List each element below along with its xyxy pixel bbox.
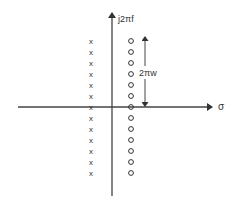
zero-marker <box>129 138 134 143</box>
pole-marker: x <box>89 136 93 145</box>
pole-marker: x <box>89 81 93 90</box>
zero-marker <box>129 94 134 99</box>
pole-marker: x <box>89 48 93 57</box>
diagram-svg: j2πf σ 2πw xxxxxxxxxxxxx <box>0 0 233 203</box>
zero-marker <box>129 116 134 121</box>
pole-marker: x <box>89 158 93 167</box>
zero-marker <box>129 149 134 154</box>
pole-zero-diagram: j2πf σ 2πw xxxxxxxxxxxxx <box>0 0 233 203</box>
spacing-label: 2πw <box>139 68 157 78</box>
pole-marker: x <box>89 125 93 134</box>
zero-marker <box>129 61 134 66</box>
horizontal-axis-label: σ <box>218 101 225 112</box>
zero-marker <box>129 72 134 77</box>
vertical-axis-label: j2πf <box>117 14 134 24</box>
zero-marker <box>129 127 134 132</box>
zero-marker <box>129 39 134 44</box>
poles-column: xxxxxxxxxxxxx <box>89 37 93 178</box>
zero-marker <box>129 83 134 88</box>
pole-marker: x <box>89 103 93 112</box>
pole-marker: x <box>89 37 93 46</box>
zero-marker <box>129 160 134 165</box>
zero-marker <box>129 50 134 55</box>
pole-marker: x <box>89 114 93 123</box>
pole-marker: x <box>89 59 93 68</box>
pole-marker: x <box>89 147 93 156</box>
pole-marker: x <box>89 92 93 101</box>
zero-marker <box>129 171 134 176</box>
pole-marker: x <box>89 169 93 178</box>
pole-marker: x <box>89 70 93 79</box>
